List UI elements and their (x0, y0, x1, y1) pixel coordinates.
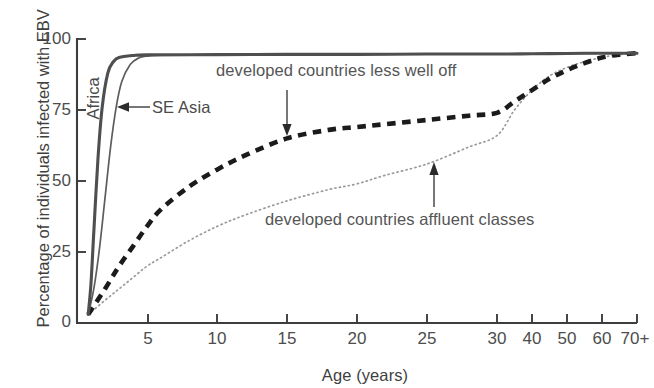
series-label-africa: Africa (84, 64, 103, 134)
x-tick-label-10: 10 (197, 329, 237, 349)
x-tick-label-30: 30 (477, 329, 517, 349)
x-tick-label-50: 50 (547, 329, 587, 349)
x-tick-label-15: 15 (267, 329, 307, 349)
y-tick-label-100: 100 (29, 29, 71, 49)
series-label-se-asia: SE Asia (152, 98, 210, 117)
x-axis-ticks (148, 314, 637, 323)
axis-lines (76, 38, 637, 323)
arrow-down-less-well-off (282, 90, 291, 136)
annotation-less-well-off: developed countries less well off (216, 61, 457, 80)
y-tick-label-75: 75 (29, 100, 71, 120)
y-tick-label-50: 50 (29, 171, 71, 191)
x-tick-label-5: 5 (128, 329, 168, 349)
y-tick-label-0: 0 (29, 312, 71, 332)
x-tick-label-25: 25 (407, 329, 447, 349)
annotation-affluent-classes: developed countries affluent classes (265, 210, 534, 229)
arrow-left-se-asia (117, 102, 150, 112)
x-tick-label-40: 40 (512, 329, 552, 349)
y-tick-label-25: 25 (29, 242, 71, 262)
x-tick-label-70plus: 70+ (612, 329, 654, 349)
series-line-less-well-off (88, 53, 637, 314)
x-axis-title: Age (years) (265, 366, 465, 385)
x-tick-label-20: 20 (337, 329, 377, 349)
series-line-africa (88, 53, 637, 314)
series-line-affluent-classes (88, 53, 637, 314)
arrow-up-affluent-classes (429, 162, 438, 207)
series-line-se-asia (88, 53, 637, 314)
